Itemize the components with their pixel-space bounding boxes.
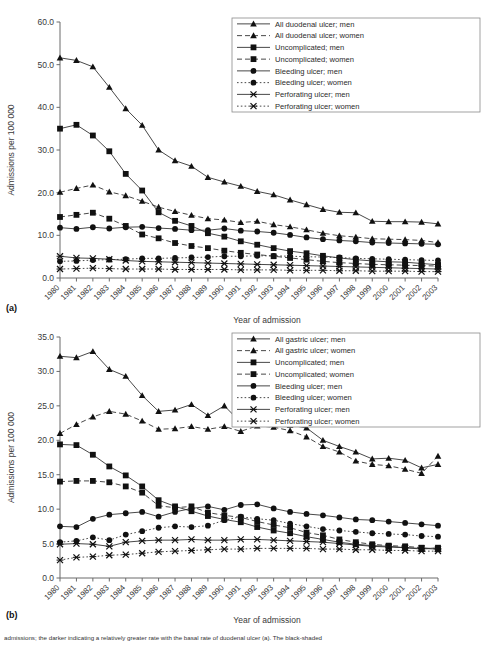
chart-b-svg: Admissions per 100 0000.05.010.015.020.0…	[0, 325, 487, 625]
series-line	[60, 268, 438, 271]
y-tick-label: 5.0	[42, 539, 54, 549]
data-point	[435, 263, 441, 269]
x-tick-label: 1982	[75, 283, 94, 302]
legend-label: Perforating ulcer; men	[275, 405, 350, 414]
data-point	[419, 533, 425, 539]
data-point	[188, 401, 195, 407]
data-point	[90, 224, 96, 230]
series-6	[57, 536, 442, 552]
legend-label: Uncomplicated; women	[275, 55, 354, 64]
data-point	[221, 226, 227, 232]
legend-label: Uncomplicated; men	[275, 43, 344, 52]
data-point	[435, 258, 441, 264]
data-point	[385, 455, 392, 461]
data-point	[271, 230, 277, 236]
series-1	[57, 182, 442, 245]
x-tick-label: 1985	[125, 583, 144, 602]
x-tick-label: 1991	[223, 283, 242, 302]
data-point	[254, 253, 260, 259]
data-point	[74, 226, 80, 232]
x-tick-label: 2000	[371, 283, 390, 302]
data-point	[189, 524, 195, 530]
x-axis-title: Year of admission	[233, 315, 301, 325]
data-point	[156, 235, 162, 241]
data-point	[352, 547, 359, 553]
data-point	[287, 267, 294, 273]
data-point	[189, 255, 195, 261]
data-point	[106, 479, 112, 485]
data-point	[304, 511, 310, 517]
x-tick-label: 1995	[289, 283, 308, 302]
data-point	[435, 453, 442, 459]
data-point	[188, 266, 195, 272]
data-point	[254, 501, 260, 507]
data-point	[238, 238, 244, 244]
x-tick-label: 1994	[273, 283, 292, 302]
data-point	[73, 266, 80, 272]
x-tick-label: 1985	[125, 283, 144, 302]
data-point	[369, 530, 375, 536]
data-point	[237, 261, 244, 267]
data-point	[204, 537, 211, 543]
data-point	[287, 253, 293, 259]
series-6	[57, 253, 442, 272]
data-point	[123, 473, 129, 479]
data-point	[172, 509, 178, 515]
data-point	[336, 443, 343, 449]
data-point	[155, 537, 162, 543]
x-tick-label: 2003	[420, 283, 439, 302]
data-point	[90, 133, 96, 139]
y-tick-label: 0.0	[42, 273, 54, 283]
data-point	[155, 426, 162, 432]
data-point	[172, 266, 179, 272]
data-point	[156, 225, 162, 231]
data-point	[221, 248, 227, 254]
data-point	[237, 546, 244, 552]
x-tick-label: 1991	[223, 583, 242, 602]
data-point	[205, 510, 211, 516]
data-point	[287, 509, 293, 515]
x-tick-label: 1996	[305, 283, 324, 302]
series-line	[60, 504, 438, 527]
x-axis-title: Year of admission	[233, 615, 301, 625]
data-point	[320, 532, 326, 538]
x-tick-label: 2002	[404, 283, 423, 302]
data-point	[205, 245, 211, 251]
data-point	[106, 216, 112, 222]
data-point	[90, 478, 96, 484]
data-point	[303, 545, 310, 551]
legend-label: Bleeding ulcer; women	[275, 393, 352, 402]
data-point	[221, 266, 228, 272]
data-point	[320, 546, 327, 552]
series-line	[60, 227, 438, 244]
data-point	[386, 256, 392, 262]
data-point	[221, 517, 227, 523]
data-point	[419, 263, 425, 269]
chart-a-svg: Admissions per 100 0000.010.020.030.040.…	[0, 0, 487, 325]
series-5	[57, 514, 441, 545]
x-tick-label: 1981	[59, 583, 78, 602]
data-point	[419, 257, 425, 263]
y-tick-label: 50.0	[37, 60, 54, 70]
data-point	[271, 245, 277, 251]
x-tick-label: 1983	[92, 583, 111, 602]
data-point	[122, 373, 129, 379]
data-point	[204, 547, 211, 553]
series-4	[57, 501, 441, 530]
data-point	[304, 530, 310, 536]
data-point	[106, 189, 113, 195]
x-tick-label: 1998	[338, 283, 357, 302]
series-7	[57, 545, 442, 563]
data-point	[139, 188, 145, 194]
data-point	[139, 509, 145, 515]
data-point	[57, 442, 63, 448]
x-tick-label: 1998	[338, 583, 357, 602]
data-point	[90, 452, 96, 458]
legend: All duodenal ulcer; menAll duodenal ulce…	[232, 18, 480, 112]
y-axis-title: Admissions per 100 000	[6, 412, 16, 503]
data-point	[254, 267, 261, 273]
data-point	[435, 461, 442, 467]
data-point	[287, 427, 294, 433]
y-tick-label: 10.0	[37, 504, 54, 514]
data-point	[139, 484, 145, 490]
